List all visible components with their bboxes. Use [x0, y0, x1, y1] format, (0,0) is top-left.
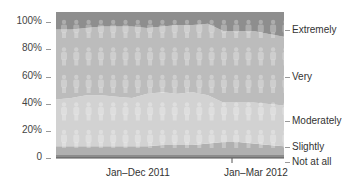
y-tick-mark: [46, 158, 51, 159]
legend-moderately: Moderately: [292, 115, 341, 126]
legend-dash: [285, 162, 290, 163]
legend-dash: [285, 77, 290, 78]
y-tick-mark: [46, 104, 51, 105]
legend-not-at-all: Not at all: [292, 156, 331, 167]
y-tick-0: 0: [8, 151, 42, 162]
legend-dash: [285, 147, 290, 148]
y-tick-20: 20%: [8, 124, 42, 135]
legend-dash: [285, 121, 290, 122]
x-label-2012: Jan–Mar 2012: [224, 167, 288, 178]
y-tick-mark: [46, 131, 51, 132]
x-label-2011: Jan–Dec 2011: [106, 167, 170, 178]
y-tick-mark: [46, 77, 51, 78]
y-tick-100: 100%: [8, 15, 42, 26]
legend-very: Very: [292, 71, 312, 82]
y-tick-80: 80%: [8, 42, 42, 53]
y-tick-mark: [46, 49, 51, 50]
legend-slightly: Slightly: [292, 141, 324, 152]
legend-extremely: Extremely: [292, 24, 336, 35]
y-tick-40: 40%: [8, 97, 42, 108]
legend-dash: [285, 30, 290, 31]
y-tick-60: 60%: [8, 70, 42, 81]
y-tick-mark: [46, 22, 51, 23]
